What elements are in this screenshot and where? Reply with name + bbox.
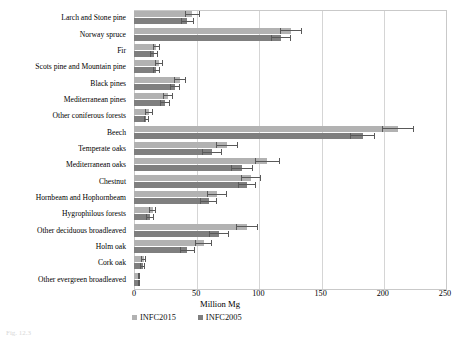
error-bar-cap-low — [271, 35, 272, 41]
bar-group — [134, 77, 445, 91]
error-bar-cap-low — [231, 165, 232, 171]
bar-infc2015 — [134, 142, 227, 148]
forest-biomass-bar-chart: Larch and Stone pineNorway spruceFirScot… — [0, 0, 464, 343]
error-bar-cap-low — [174, 77, 175, 83]
category-label: Beech — [107, 128, 126, 137]
error-bar-line — [350, 135, 375, 136]
error-bar-cap-high — [162, 60, 163, 66]
error-bar-cap-low — [207, 191, 208, 197]
category-label: Temperate oaks — [78, 144, 126, 153]
category-label: Hygrophilous forests — [62, 209, 126, 218]
error-bar-cap-high — [226, 191, 227, 197]
error-bar — [141, 256, 146, 262]
error-bar-cap-high — [144, 263, 145, 269]
legend-item-infc2005[interactable]: INFC2005 — [198, 313, 242, 322]
bar-group — [134, 11, 445, 25]
error-bar — [209, 231, 229, 237]
error-bar — [185, 11, 200, 17]
error-bar-cap-low — [209, 231, 210, 237]
x-tick-label: 0 — [132, 289, 136, 298]
error-bar — [216, 142, 238, 148]
error-bar — [149, 207, 156, 213]
chart-legend: INFC2015 INFC2005 — [132, 311, 242, 323]
error-bar — [138, 273, 140, 279]
x-axis-title: Million Mg — [0, 299, 464, 309]
error-bar — [150, 51, 157, 57]
category-label: Cork oak — [98, 258, 126, 267]
bar-group — [134, 175, 445, 189]
error-bar-line — [180, 250, 195, 251]
category-label: Scots pine and Mountain pine — [35, 62, 126, 71]
bar-infc2005 — [134, 149, 212, 155]
error-bar-cap-high — [179, 84, 180, 90]
error-bar-cap-low — [181, 18, 182, 24]
error-bar-cap-low — [241, 175, 242, 181]
bar-group — [134, 126, 445, 140]
bar-group — [134, 158, 445, 172]
bar-infc2015 — [134, 224, 247, 230]
legend-swatch-icon-infc2015 — [132, 315, 137, 320]
bar-infc2005 — [134, 198, 209, 204]
error-bar-cap-low — [149, 207, 150, 213]
error-bar-cap-high — [216, 198, 217, 204]
error-bar-cap-low — [145, 109, 146, 115]
error-bar — [153, 67, 160, 73]
category-axis-labels: Larch and Stone pineNorway spruceFirScot… — [0, 10, 130, 288]
error-bar-line — [280, 30, 302, 31]
error-bar — [200, 198, 217, 204]
bar-infc2005 — [134, 182, 247, 188]
error-bar-cap-low — [255, 158, 256, 164]
category-label: Chestnut — [99, 177, 126, 186]
x-tick-label: 50 — [192, 289, 200, 298]
error-bar-cap-high — [413, 126, 414, 132]
error-bar-cap-low — [140, 263, 141, 269]
error-bar — [146, 214, 153, 220]
error-bar-cap-high — [193, 18, 194, 24]
error-bar-cap-high — [221, 149, 222, 155]
error-bar-cap-low — [153, 67, 154, 73]
error-bar-cap-high — [159, 67, 160, 73]
category-label: Other coniferous forests — [53, 111, 126, 120]
bar-infc2015 — [134, 28, 291, 34]
error-bar-cap-high — [157, 51, 158, 57]
bar-group — [134, 273, 445, 287]
legend-label-infc2015: INFC2015 — [140, 313, 176, 322]
bar-group — [134, 240, 445, 254]
error-bar-cap-high — [148, 116, 149, 122]
bar-group — [134, 109, 445, 123]
error-bar-line — [209, 233, 229, 234]
error-bar-cap-low — [180, 247, 181, 253]
error-bar-cap-high — [145, 256, 146, 262]
bar-infc2005 — [134, 18, 187, 24]
error-bar-line — [382, 128, 414, 129]
error-bar-cap-low — [144, 116, 145, 122]
bar-infc2015 — [134, 175, 251, 181]
bar-infc2015 — [134, 158, 267, 164]
error-bar-cap-high — [155, 207, 156, 213]
bar-group — [134, 44, 445, 58]
error-bar-line — [255, 161, 280, 162]
error-bar — [155, 60, 162, 66]
error-bar — [241, 175, 261, 181]
bar-group — [134, 191, 445, 205]
error-bar-cap-high — [139, 280, 140, 286]
error-bar-cap-low — [150, 51, 151, 57]
error-bar-cap-high — [260, 175, 261, 181]
bar-rows — [134, 10, 445, 288]
bar-infc2005 — [134, 133, 363, 139]
error-bar — [350, 133, 375, 139]
bar-infc2015 — [134, 240, 204, 246]
error-bar — [202, 149, 222, 155]
error-bar-cap-high — [290, 35, 291, 41]
error-bar-cap-low — [216, 142, 217, 148]
error-bar — [140, 263, 145, 269]
bar-group — [134, 207, 445, 221]
bar-group — [134, 60, 445, 74]
x-axis-title-text: Million Mg — [200, 299, 240, 309]
legend-item-infc2015[interactable]: INFC2015 — [132, 313, 176, 322]
error-bar — [138, 280, 140, 286]
error-bar — [207, 191, 227, 197]
error-bar-cap-high — [169, 100, 170, 106]
error-bar — [195, 240, 212, 246]
bar-infc2005 — [134, 84, 175, 90]
